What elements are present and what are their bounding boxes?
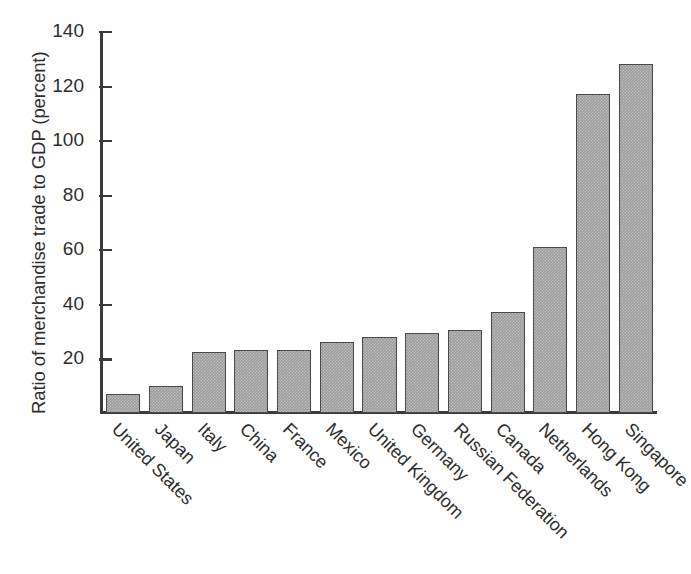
plot-area: 20406080100120140 — [100, 31, 657, 413]
y-tick-label: 140 — [52, 20, 84, 42]
bar — [405, 333, 439, 413]
y-tick-label: 60 — [63, 238, 84, 260]
bar — [192, 352, 226, 413]
bar — [320, 342, 354, 413]
x-axis-label: France — [278, 419, 332, 473]
x-axis-label: Mexico — [321, 419, 376, 474]
bar — [619, 64, 653, 413]
y-axis-title: Ratio of merchandise trade to GDP (perce… — [24, 14, 54, 414]
bar — [448, 330, 482, 413]
y-tick-label: 80 — [63, 184, 84, 206]
bar — [149, 386, 183, 413]
x-axis-category-labels: United StatesJapanItalyChinaFranceMexico… — [100, 413, 657, 573]
bar — [362, 337, 396, 413]
y-tick-label: 120 — [52, 75, 84, 97]
y-tick-label: 100 — [52, 129, 84, 151]
bar — [234, 350, 268, 413]
bar — [106, 394, 140, 413]
x-axis-label: Italy — [193, 419, 231, 457]
bar — [277, 350, 311, 413]
bar-series — [102, 31, 657, 413]
y-tick-label: 20 — [63, 347, 84, 369]
x-axis-label: China — [235, 419, 283, 467]
bar — [533, 247, 567, 413]
y-tick-label: 40 — [63, 293, 84, 315]
bar — [491, 312, 525, 413]
bar — [576, 94, 610, 413]
